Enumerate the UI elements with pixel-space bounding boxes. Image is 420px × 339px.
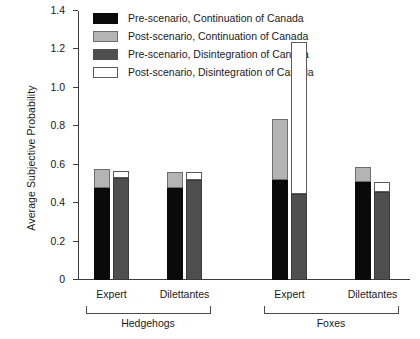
y-axis-tick-label: 0.4	[50, 196, 65, 208]
bar-continuation	[167, 172, 183, 280]
bar-segment-pre	[94, 188, 110, 280]
bar-segment-pre	[291, 194, 307, 280]
y-axis-tick-label: 0.6	[50, 158, 65, 170]
y-axis-title: Average Subjective Probability	[25, 48, 37, 268]
bar-segment-pre	[355, 182, 371, 280]
y-axis-tick: 0	[73, 279, 78, 280]
bar-segment-post	[272, 119, 288, 180]
y-axis-tick: 0.2	[73, 241, 78, 242]
y-axis-tick: 1.4	[73, 10, 78, 11]
x-axis-category-label: Expert	[96, 288, 126, 300]
bar-continuation	[355, 167, 371, 280]
bar-segment-post	[94, 169, 110, 188]
y-axis-line	[78, 11, 79, 280]
bar-disintegration	[374, 182, 390, 280]
bar-segment-pre	[272, 180, 288, 280]
bar-segment-post	[186, 172, 202, 180]
bar-segment-pre	[186, 180, 202, 280]
y-axis-tick-label: 0.8	[50, 119, 65, 131]
bar-segment-pre	[167, 188, 183, 280]
y-axis-tick: 0.6	[73, 164, 78, 165]
group-bracket	[86, 306, 211, 314]
bar-segment-pre	[113, 178, 129, 280]
x-axis-group-label: Hedgehogs	[121, 317, 175, 329]
x-axis-category-label: Dilettantes	[348, 288, 398, 300]
y-axis-tick: 0.4	[73, 202, 78, 203]
group-bracket	[264, 306, 399, 314]
bar-segment-post	[374, 182, 390, 192]
bar-segment-post	[113, 171, 129, 179]
y-axis-tick-label: 0	[59, 273, 65, 285]
bar-segment-pre	[374, 192, 390, 280]
plot-area: 00.20.40.60.81.01.21.4	[78, 11, 410, 280]
bar-segment-post	[167, 172, 183, 187]
x-axis-group-label: Foxes	[317, 317, 346, 329]
x-axis-category-label: Expert	[274, 288, 304, 300]
bar-disintegration	[186, 172, 202, 280]
y-axis-tick: 1.2	[73, 48, 78, 49]
y-axis-tick: 0.8	[73, 125, 78, 126]
bar-continuation	[272, 119, 288, 280]
y-axis-tick: 1.0	[73, 87, 78, 88]
y-axis-tick-label: 0.2	[50, 235, 65, 247]
y-axis-tick-label: 1.0	[50, 81, 65, 93]
bar-segment-post	[291, 42, 307, 194]
bar-segment-post	[355, 167, 371, 182]
bar-continuation	[94, 169, 110, 280]
bar-disintegration	[113, 170, 129, 280]
y-axis-tick-label: 1.4	[50, 4, 65, 16]
bar-chart: Average Subjective Probability Pre-scena…	[0, 0, 420, 339]
x-axis-category-label: Dilettantes	[160, 288, 210, 300]
bar-disintegration	[291, 42, 307, 280]
y-axis-tick-label: 1.2	[50, 42, 65, 54]
